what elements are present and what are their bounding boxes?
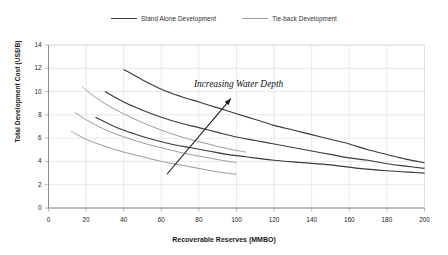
plot-canvas bbox=[0, 0, 448, 255]
chart-figure: Stand Alone Development Tie-back Develop… bbox=[0, 0, 448, 255]
increasing-water-depth-annotation: Increasing Water Depth bbox=[194, 79, 283, 89]
series-line bbox=[96, 117, 425, 173]
series-line bbox=[105, 92, 425, 169]
series-line bbox=[71, 131, 236, 174]
